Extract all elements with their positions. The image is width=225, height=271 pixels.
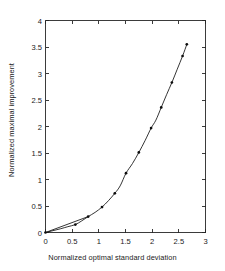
data-point-marker [181, 55, 184, 58]
data-point-marker-layer [44, 43, 188, 234]
data-point-marker [87, 215, 90, 218]
data-point-marker [74, 223, 77, 226]
tick-mark-layer [46, 21, 206, 233]
plot-area [0, 0, 225, 271]
data-point-marker [137, 151, 140, 154]
data-point-marker [160, 106, 163, 109]
data-curve [46, 44, 187, 232]
data-series-layer [46, 44, 187, 232]
chord-line [46, 217, 89, 233]
data-point-marker [44, 231, 47, 234]
data-point-marker [101, 206, 104, 209]
data-point-marker [125, 172, 128, 175]
axis-box-rect [46, 21, 206, 233]
data-point-marker [185, 43, 188, 46]
axis-box [46, 21, 206, 233]
data-point-marker [113, 192, 116, 195]
data-point-marker [171, 81, 174, 84]
figure-canvas: Normalized maximal improvement Normalize… [0, 0, 225, 271]
data-point-marker [150, 127, 153, 130]
